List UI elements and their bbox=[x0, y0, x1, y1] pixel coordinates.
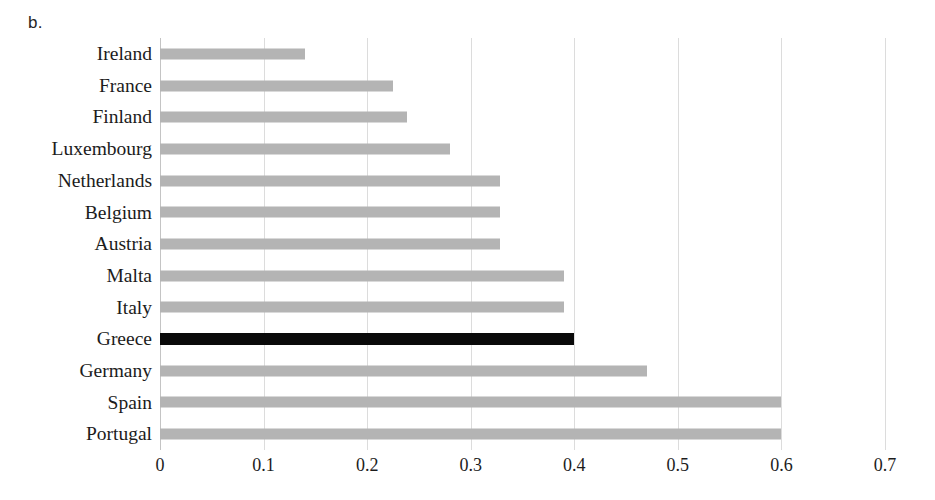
category-label-row: Ireland bbox=[0, 38, 152, 70]
bar-row bbox=[160, 323, 885, 355]
bar-greece bbox=[160, 333, 574, 345]
bar-row bbox=[160, 196, 885, 228]
x-tick-label-0.5: 0.5 bbox=[667, 456, 690, 474]
x-tick-label-0.4: 0.4 bbox=[563, 456, 586, 474]
category-label-row: Greece bbox=[0, 323, 152, 355]
x-tick-label-0.2: 0.2 bbox=[356, 456, 379, 474]
category-label-row: Malta bbox=[0, 260, 152, 292]
category-label-row: Portugal bbox=[0, 418, 152, 450]
bar-row bbox=[160, 292, 885, 324]
bar-row bbox=[160, 260, 885, 292]
category-label-belgium: Belgium bbox=[85, 203, 152, 223]
bar-row bbox=[160, 101, 885, 133]
x-axis-tick-labels: 00.10.20.30.40.50.60.7 bbox=[0, 456, 935, 486]
bar-netherlands bbox=[160, 175, 500, 186]
x-tick-label-0.7: 0.7 bbox=[874, 456, 897, 474]
x-tick-label-0.1: 0.1 bbox=[252, 456, 275, 474]
category-label-italy: Italy bbox=[116, 298, 152, 318]
bar-austria bbox=[160, 238, 500, 249]
gridline-0.7 bbox=[885, 38, 886, 450]
bar-row bbox=[160, 355, 885, 387]
bar-germany bbox=[160, 365, 647, 376]
category-label-row: France bbox=[0, 70, 152, 102]
category-label-row: Austria bbox=[0, 228, 152, 260]
category-label-france: France bbox=[99, 76, 152, 96]
category-label-row: Spain bbox=[0, 387, 152, 419]
category-axis-labels: IrelandFranceFinlandLuxembourgNetherland… bbox=[0, 38, 152, 450]
plot-area bbox=[160, 38, 885, 450]
category-label-row: Germany bbox=[0, 355, 152, 387]
panel-letter-label: b. bbox=[28, 14, 43, 31]
bar-row bbox=[160, 228, 885, 260]
bar-france bbox=[160, 80, 393, 91]
category-label-row: Italy bbox=[0, 292, 152, 324]
x-tick-label-0.6: 0.6 bbox=[770, 456, 793, 474]
bar-portugal bbox=[160, 429, 781, 440]
category-label-greece: Greece bbox=[97, 329, 152, 349]
bar-finland bbox=[160, 112, 407, 123]
category-label-luxembourg: Luxembourg bbox=[52, 139, 152, 159]
category-label-row: Luxembourg bbox=[0, 133, 152, 165]
category-label-portugal: Portugal bbox=[86, 424, 152, 444]
category-label-malta: Malta bbox=[107, 266, 152, 286]
bar-row bbox=[160, 70, 885, 102]
bar-row bbox=[160, 38, 885, 70]
x-tick-label-0.3: 0.3 bbox=[459, 456, 482, 474]
category-label-austria: Austria bbox=[95, 234, 152, 254]
bar-row bbox=[160, 165, 885, 197]
bar-row bbox=[160, 133, 885, 165]
bar-row bbox=[160, 387, 885, 419]
chart-figure: b. IrelandFranceFinlandLuxembourgNetherl… bbox=[0, 0, 935, 500]
category-label-germany: Germany bbox=[79, 361, 152, 381]
category-label-netherlands: Netherlands bbox=[58, 171, 152, 191]
bar-luxembourg bbox=[160, 143, 450, 154]
category-label-row: Finland bbox=[0, 101, 152, 133]
bar-malta bbox=[160, 270, 564, 281]
bar-belgium bbox=[160, 207, 500, 218]
category-label-spain: Spain bbox=[108, 393, 152, 413]
bar-italy bbox=[160, 302, 564, 313]
x-tick-label-0: 0 bbox=[156, 456, 165, 474]
category-label-row: Belgium bbox=[0, 196, 152, 228]
category-label-finland: Finland bbox=[92, 107, 152, 127]
bar-ireland bbox=[160, 48, 305, 59]
bar-row bbox=[160, 418, 885, 450]
bar-spain bbox=[160, 397, 781, 408]
category-label-row: Netherlands bbox=[0, 165, 152, 197]
category-label-ireland: Ireland bbox=[97, 44, 152, 64]
